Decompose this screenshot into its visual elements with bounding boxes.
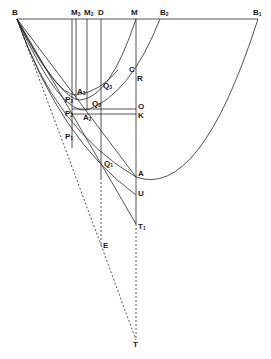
label-m: M bbox=[131, 9, 138, 17]
label-d: D bbox=[98, 9, 104, 17]
label-p3: P3 bbox=[65, 96, 73, 104]
label-p2: P2 bbox=[65, 110, 73, 118]
label-t: T bbox=[133, 341, 138, 349]
label-q1: Q1 bbox=[104, 160, 113, 168]
label-m2: M2 bbox=[84, 9, 93, 17]
line-b-e-dashed bbox=[17, 19, 101, 245]
label-b1: B1 bbox=[253, 9, 262, 17]
label-t1: T1 bbox=[138, 223, 146, 231]
label-k: K bbox=[138, 112, 144, 120]
label-q2: Q2 bbox=[92, 100, 101, 108]
label-c: C bbox=[129, 66, 135, 74]
label-b: B bbox=[12, 9, 18, 17]
label-a2: A2 bbox=[83, 114, 92, 122]
line-e-t-dashed bbox=[101, 245, 136, 340]
label-e: E bbox=[103, 242, 108, 250]
label-r: R bbox=[137, 75, 143, 83]
label-o: O bbox=[138, 103, 144, 111]
parabola-b2 bbox=[17, 19, 160, 110]
label-a3: A3 bbox=[77, 88, 86, 96]
label-p1: P1 bbox=[65, 133, 73, 141]
line-b-a bbox=[17, 19, 136, 177]
geometric-diagram bbox=[0, 0, 271, 359]
line-b-t1 bbox=[17, 19, 136, 224]
label-q3: Q3 bbox=[103, 82, 112, 90]
label-b2: B2 bbox=[160, 9, 169, 17]
label-a: A bbox=[138, 170, 144, 178]
label-m3: M3 bbox=[71, 9, 80, 17]
label-u: U bbox=[138, 190, 144, 198]
curve-b-u bbox=[17, 19, 136, 195]
